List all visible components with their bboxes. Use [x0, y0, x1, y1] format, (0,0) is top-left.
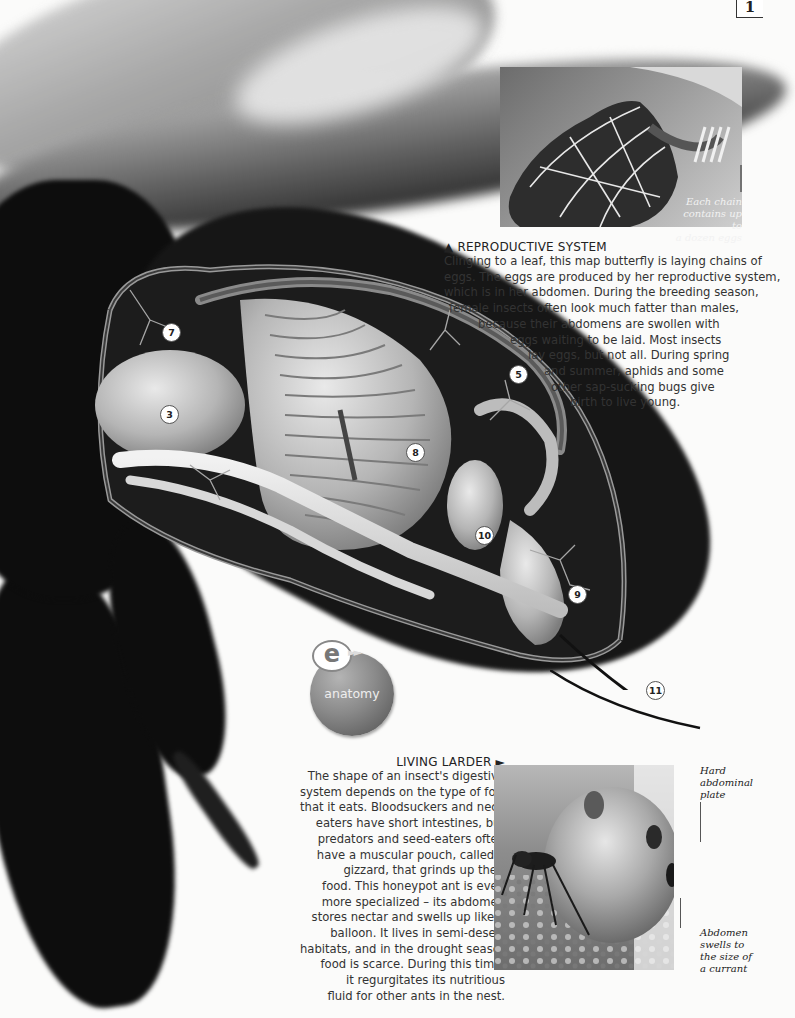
page-number: 1 — [736, 0, 763, 18]
anatomy-e-link-badge[interactable]: e ►► anatomy — [310, 640, 406, 736]
body-line: female insects often look much fatter th… — [449, 301, 764, 317]
body-line: birth to live young. — [570, 395, 764, 411]
callout-7: 7 — [162, 323, 181, 342]
body-line: that it eats. Bloodsuckers and nectar- — [300, 800, 505, 816]
honeypot-ant-photo — [494, 765, 674, 970]
body-line: fluid for other ants in the nest. — [300, 989, 505, 1005]
body-line: balloon. It lives in semi-desert — [300, 926, 505, 942]
fast-forward-icon: ►► — [348, 646, 359, 659]
body-line: predators and seed-eaters often — [300, 832, 505, 848]
larder-body: The shape of an insect's digestive syste… — [300, 769, 505, 1005]
e-link-icon: e — [312, 640, 352, 672]
abdomen-swells-caption: Abdomen swells to the size of a currant — [700, 927, 764, 975]
hard-plate-caption: Hard abdominal plate — [700, 765, 764, 801]
abdomen-leader-line — [680, 898, 681, 928]
body-line: stores nectar and swells up like a — [300, 910, 505, 926]
caption-line: plate — [700, 789, 764, 801]
caption-line: a currant — [700, 963, 764, 975]
plate-leader-line — [700, 802, 701, 842]
egg-chain-caption: Each chain contains up to a dozen eggs — [672, 196, 742, 244]
body-line: habitats, and in the drought season — [300, 942, 505, 958]
larder-heading: LIVING LARDER ► — [300, 755, 505, 769]
body-line: which is in her abdomen. During the bree… — [444, 285, 764, 301]
caption-line: swells to — [700, 939, 764, 951]
caption-line: the size of — [700, 951, 764, 963]
caption-line: abdominal — [700, 777, 764, 789]
body-line: other sap-sucking bugs give — [551, 380, 764, 396]
up-triangle-icon: ▲ — [444, 240, 453, 254]
body-line: eaters have short intestines, but — [300, 816, 505, 832]
sting-icon — [550, 670, 710, 730]
body-line: food. This honeypot ant is even — [300, 879, 505, 895]
body-line: because their abdomens are swollen with — [478, 317, 764, 333]
badge-label: anatomy — [310, 686, 394, 701]
body-line: have a muscular pouch, called a — [300, 848, 505, 864]
caption-line: Each chain — [672, 196, 742, 208]
callout-8: 8 — [406, 443, 425, 462]
body-line: eggs. The eggs are produced by her repro… — [444, 270, 764, 286]
caption-line: Abdomen — [700, 927, 764, 939]
body-line: eggs waiting to be laid. Most insects — [510, 333, 764, 349]
callout-11: 11 — [646, 681, 665, 700]
middle-leg-tarsus — [167, 746, 265, 873]
body-line: lay eggs, but not all. During spring — [528, 348, 764, 364]
reproductive-heading: ▲ REPRODUCTIVE SYSTEM — [444, 240, 764, 254]
body-line: and summer, aphids and some — [544, 364, 764, 380]
living-larder-section: LIVING LARDER ► The shape of an insect's… — [300, 755, 505, 1005]
heading-text: REPRODUCTIVE SYSTEM — [457, 240, 606, 254]
ant-image — [494, 765, 674, 970]
body-line: The shape of an insect's digestive — [300, 769, 505, 785]
caption-line: Hard — [700, 765, 764, 777]
body-line: gizzard, that grinds up their — [300, 863, 505, 879]
callout-9: 9 — [568, 585, 587, 604]
heading-text: LIVING LARDER — [396, 755, 491, 769]
callout-3: 3 — [160, 405, 179, 424]
reproductive-body: Clinging to a leaf, this map butterfly i… — [444, 254, 764, 411]
body-line: it regurgitates its nutritious — [300, 973, 505, 989]
reproductive-system-section: ▲ REPRODUCTIVE SYSTEM Clinging to a leaf… — [444, 240, 764, 411]
body-line: food is scarce. During this time, — [300, 957, 505, 973]
callout-10: 10 — [475, 526, 494, 545]
body-line: system depends on the type of food — [300, 785, 505, 801]
body-line: more specialized – its abdomen — [300, 895, 505, 911]
caption-line: contains up to — [672, 208, 742, 232]
body-line: Clinging to a leaf, this map butterfly i… — [444, 254, 764, 270]
